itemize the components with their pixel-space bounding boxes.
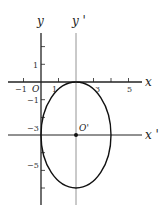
x-tick-label: −1 [15, 85, 27, 94]
x-tick-label: 3 [95, 85, 100, 94]
x-prime-axis-label: x ' [145, 128, 159, 142]
y-prime-axis-label: y ' [71, 14, 86, 28]
new-origin-label: O' [79, 123, 89, 133]
y-tick-label: −1 [27, 96, 39, 105]
y-tick-label: 1 [33, 61, 38, 70]
ellipse-diagram: y y ' x x ' O O' −1 1 3 5 1 −1 −3 −5 [0, 0, 165, 212]
origin-label: O [32, 84, 40, 94]
x-tick-label: 1 [52, 85, 57, 94]
x-tick-label: 5 [127, 85, 132, 94]
y-tick-label: −5 [27, 161, 39, 170]
center-point [74, 133, 78, 137]
y-tick-label: −3 [27, 124, 39, 133]
y-axis-label: y [36, 14, 44, 28]
x-axis-label: x [145, 75, 152, 89]
